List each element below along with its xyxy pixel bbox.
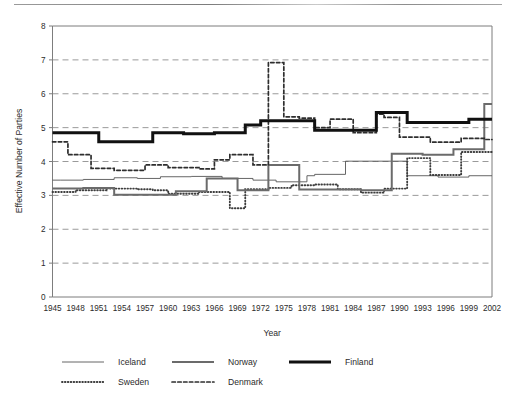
x-tick-label: 1984 — [344, 304, 363, 313]
x-tick-label: 1969 — [228, 304, 247, 313]
y-tick-label: 7 — [41, 56, 46, 65]
chart-legend: IcelandNorwayFinlandSwedenDenmark — [62, 357, 373, 387]
data-series — [53, 63, 493, 209]
grid-lines — [53, 60, 493, 263]
x-tick-label: 1960 — [159, 304, 178, 313]
x-tick-label: 1966 — [205, 304, 224, 313]
x-tick-label: 1954 — [113, 304, 132, 313]
x-tick-label: 1978 — [298, 304, 317, 313]
x-tick-label: 1987 — [367, 304, 386, 313]
x-tick-label: 1957 — [136, 304, 155, 313]
legend-label-iceland[interactable]: Iceland — [118, 357, 146, 367]
y-axis-title: Effective Number of Parties — [14, 109, 24, 213]
x-tick-label: 1990 — [390, 304, 409, 313]
x-tick-label: 1999 — [460, 304, 479, 313]
y-tick-label: 1 — [41, 259, 46, 268]
y-tick-label: 2 — [41, 225, 46, 234]
legend-label-sweden[interactable]: Sweden — [118, 377, 149, 387]
x-tick-label: 1993 — [413, 304, 432, 313]
y-tick-label: 0 — [41, 293, 46, 302]
x-tick-label: 1963 — [182, 304, 201, 313]
x-tick-label: 1996 — [437, 304, 456, 313]
line-chart: 876543210 194519481951195419571960196319… — [0, 0, 510, 402]
x-axis-ticks: 1945194819511954195719601963196619691972… — [43, 304, 501, 313]
x-tick-label: 1945 — [43, 304, 62, 313]
legend-label-norway[interactable]: Norway — [228, 357, 258, 367]
x-tick-label: 1951 — [90, 304, 109, 313]
y-tick-label: 5 — [41, 124, 46, 133]
x-tick-label: 1975 — [275, 304, 294, 313]
header-rule — [14, 4, 502, 5]
legend-label-denmark[interactable]: Denmark — [228, 377, 264, 387]
x-axis-title: Year — [264, 328, 282, 338]
chart-figure: 876543210 194519481951195419571960196319… — [0, 0, 510, 402]
x-tick-label: 1972 — [252, 304, 271, 313]
series-line-norway — [53, 104, 493, 195]
y-tick-label: 3 — [41, 191, 46, 200]
legend-label-finland[interactable]: Finland — [345, 357, 373, 367]
y-axis-ticks: 876543210 — [41, 22, 53, 302]
y-tick-label: 8 — [41, 22, 46, 31]
x-tick-label: 1948 — [67, 304, 86, 313]
x-tick-label: 2002 — [483, 304, 502, 313]
y-tick-label: 6 — [41, 90, 46, 99]
x-tick-label: 1981 — [321, 304, 340, 313]
y-tick-label: 4 — [41, 158, 46, 167]
